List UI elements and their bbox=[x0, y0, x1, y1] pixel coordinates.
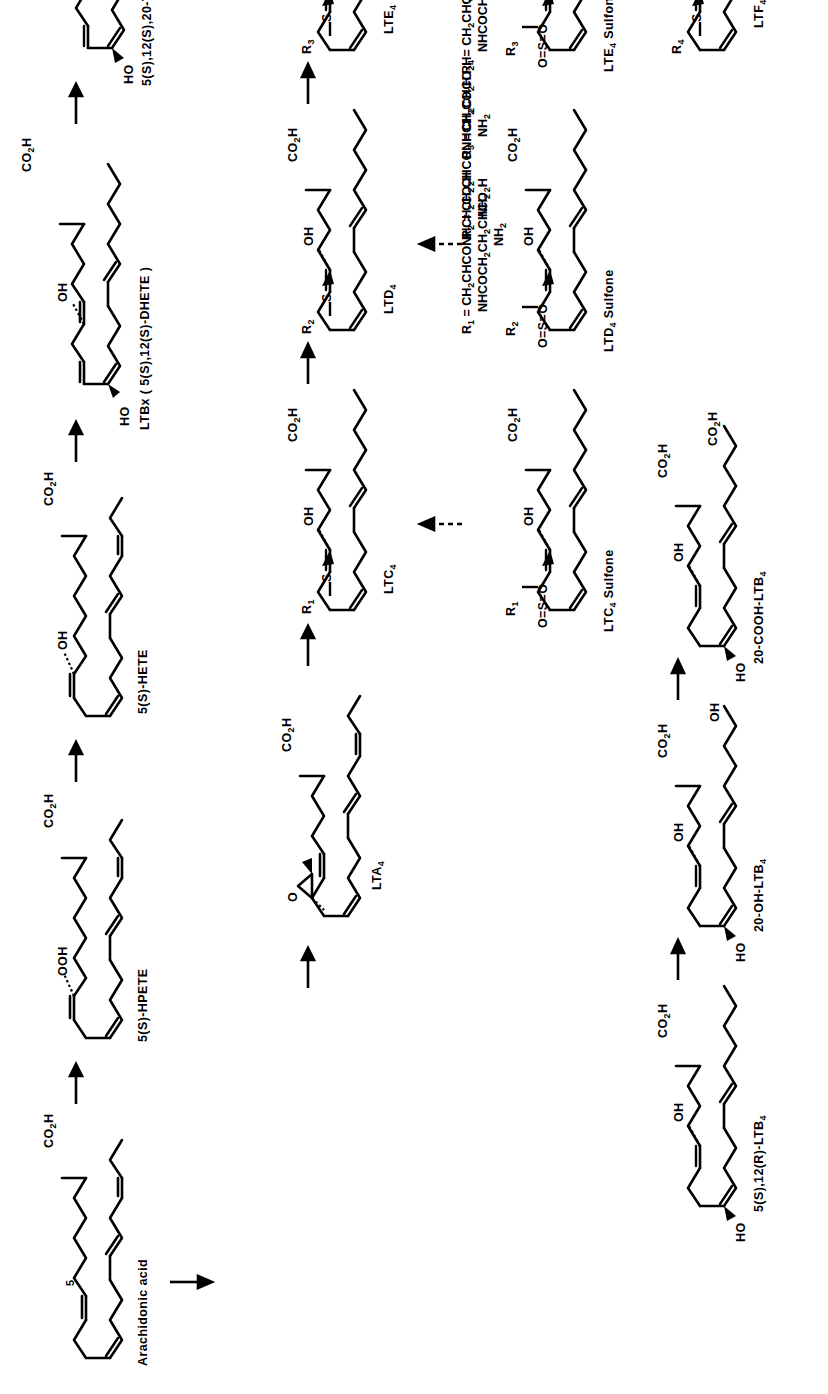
label-ho-thete: HO bbox=[122, 64, 136, 84]
label-oh-ltd4: OH bbox=[302, 226, 316, 246]
structure-ltf4: LTF4CO2HOHR4S bbox=[620, 0, 752, 78]
arrow-aa-to-ltb4 bbox=[168, 1274, 212, 1290]
arrow-lte4-to-ltf4 bbox=[440, 0, 484, 2]
arrow-ltbx-to-thete bbox=[68, 84, 84, 126]
structure-label-ltd4-sulfone: LTD4 Sulfone bbox=[602, 270, 618, 353]
structure-arachidonic-acid: Arachidonic acid CO2H 5 bbox=[18, 1126, 138, 1376]
structure-ltc4: LTC4CO2HOHR1S bbox=[250, 376, 382, 638]
structure-cooh-ltb4: 20-COOH-LTB4CO2HOHHOCO2H bbox=[620, 412, 752, 674]
arrow-ltd4-to-lte4 bbox=[300, 64, 316, 106]
structure-label-ltc4: LTC4 bbox=[382, 564, 398, 594]
label-oh-ltb4: OH bbox=[672, 1102, 686, 1122]
structure-label-ltf4: LTF4 bbox=[752, 0, 768, 28]
label-r-ltc4: R1 bbox=[300, 599, 316, 614]
label-position-5: 5 bbox=[64, 1279, 76, 1286]
arrow-20oh-to-20cooh bbox=[670, 660, 686, 702]
structure-ltc4-sulfone: LTC4 SulfoneCO2HOHR1O=S=O bbox=[470, 376, 602, 638]
structure-lta4: LTA4 CO2H O bbox=[250, 688, 370, 938]
structure-label-oh-ltb4: 20-OH-LTB4 bbox=[752, 859, 768, 932]
structure-5s-hpete: 5(S)-HPETE CO2H OOH bbox=[18, 806, 138, 1056]
structure-label-cooh-ltb4: 20-COOH-LTB4 bbox=[752, 571, 768, 664]
structure-label-ltb4: 5(S),12(R)-LTB4 bbox=[752, 1115, 768, 1212]
arrow-ltd4-to-ltd4-sulfone bbox=[420, 236, 464, 252]
structure-label-lta4: LTA4 bbox=[370, 861, 386, 890]
rotated-figure-canvas: Arachidonic acid CO2H 5 bbox=[0, 0, 828, 1394]
label-r-ltf4: R4 bbox=[670, 39, 686, 54]
label-epoxide-o-lta4: O bbox=[286, 892, 300, 902]
r-group-line3: NH2 bbox=[492, 0, 508, 74]
structure-label-5s-hpete: 5(S)-HPETE bbox=[136, 969, 150, 1042]
label-co2h-hpete: CO2H bbox=[42, 794, 58, 828]
structure-label-ltd4: LTD4 bbox=[382, 284, 398, 314]
structure-label-5s-hete: 5(S)-HETE bbox=[136, 649, 150, 714]
structure-thete: 5(S),12(S),20-THETECO2HOHHOOH bbox=[8, 0, 140, 76]
label-ho-ltb4: HO bbox=[734, 1222, 748, 1242]
label-r-ltc4-sulfone: R1 bbox=[504, 601, 520, 616]
arrow-ltc4-to-ltd4 bbox=[300, 344, 316, 386]
label-ooh-hpete: OOH bbox=[56, 946, 70, 976]
structure-ltd4: LTD4CO2HOHR2S bbox=[250, 96, 382, 358]
arrow-aa-to-hpete bbox=[68, 1064, 84, 1106]
label-omega-oh-oh-ltb4: OH bbox=[708, 702, 722, 722]
label-co2h-ltc4-sulfone: CO2H bbox=[506, 408, 522, 442]
r-group-line2: NHCOCH2CH2CHCO2H bbox=[476, 0, 492, 74]
label-oh-ltbx: OH bbox=[56, 282, 70, 302]
label-co2h-hete: CO2H bbox=[42, 472, 58, 506]
structure-5s-hete: 5(S)-HETE CO2H OH bbox=[18, 484, 138, 734]
label-co2h-aa: CO2H bbox=[42, 1114, 58, 1148]
label-co2h-ltd4: CO2H bbox=[286, 128, 302, 162]
label-co2h-ltd4-sulfone: CO2H bbox=[506, 128, 522, 162]
r-group-definition-r4: R4 = CH2CHCO2HNHCOCH2CH2CHCO2HNH2 bbox=[460, 0, 508, 74]
label-oh-ltd4-sulfone: OH bbox=[522, 226, 536, 246]
label-co2h-oh-ltb4: CO2H bbox=[656, 724, 672, 758]
arrow-hete-to-ltbx bbox=[68, 422, 84, 464]
structure-label-lte4-sulfone: LTE4 Sulfone bbox=[602, 0, 618, 72]
structure-label-ltc4-sulfone: LTC4 Sulfone bbox=[602, 550, 618, 633]
label-ho-cooh-ltb4: HO bbox=[734, 662, 748, 682]
label-oh-hete: OH bbox=[56, 630, 70, 650]
structure-label-lte4: LTE4 bbox=[382, 5, 398, 34]
structure-ltbx: LTBx ( 5(S),12(S)-DHETE ) CO2H OH HO bbox=[8, 154, 138, 414]
label-omega-co2h-cooh-ltb4: CO2H bbox=[706, 412, 722, 446]
label-r-lte4: R3 bbox=[300, 39, 316, 54]
structure-label-arachidonic-acid: Arachidonic acid bbox=[136, 1259, 150, 1366]
arrow-ltb4-to-20oh bbox=[670, 940, 686, 982]
label-oh-cooh-ltb4: OH bbox=[672, 542, 686, 562]
label-co2h-cooh-ltb4: CO2H bbox=[656, 444, 672, 478]
arrow-ltc4-to-ltc4-sulfone bbox=[420, 516, 464, 532]
label-oh-oh-ltb4: OH bbox=[672, 822, 686, 842]
r-group-line3: NH2 bbox=[492, 172, 508, 334]
label-oh-ltc4-sulfone: OH bbox=[522, 506, 536, 526]
structure-label-thete: 5(S),12(S),20-THETE bbox=[140, 0, 154, 86]
structure-oh-ltb4: 20-OH-LTB4CO2HOHHOOH bbox=[620, 692, 752, 954]
label-co2h-lta4: CO2H bbox=[280, 718, 296, 752]
r-group-line1: R4 = CH2CHCO2H bbox=[460, 0, 476, 74]
structure-ltb4: 5(S),12(R)-LTB4CO2HOHHO bbox=[620, 972, 752, 1234]
label-ho-ltbx: HO bbox=[118, 406, 132, 426]
label-co2h-ltbx: CO2H bbox=[20, 138, 36, 172]
label-co2h-ltc4: CO2H bbox=[286, 408, 302, 442]
label-ho-oh-ltb4: HO bbox=[734, 942, 748, 962]
label-oh-ltc4: OH bbox=[302, 506, 316, 526]
structure-lte4: LTE4CO2HOHR3S bbox=[250, 0, 382, 78]
arrow-hpete-to-lta4 bbox=[300, 948, 316, 990]
structure-label-ltbx: LTBx ( 5(S),12(S)-DHETE ) bbox=[138, 267, 152, 430]
arrow-hpete-to-hete bbox=[68, 742, 84, 784]
label-r-ltd4: R2 bbox=[300, 319, 316, 334]
label-co2h-ltb4: CO2H bbox=[656, 1004, 672, 1038]
figure-page: Arachidonic acid CO2H 5 bbox=[0, 0, 828, 1394]
